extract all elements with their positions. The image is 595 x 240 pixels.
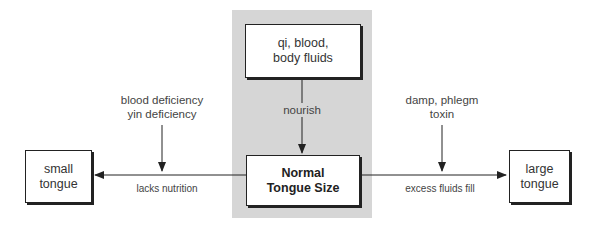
- source-box-line1: qi, blood,: [273, 36, 333, 51]
- left-cause-line2: yin deficiency: [102, 107, 222, 121]
- right-cause-line1: damp, phlegm: [392, 93, 492, 107]
- small-tongue-line2: tongue: [39, 177, 77, 192]
- right-cause-line2: toxin: [392, 107, 492, 121]
- small-tongue-box: small tongue: [25, 150, 92, 203]
- nourish-label: nourish: [272, 103, 332, 117]
- excess-fluids-fill-label: excess fluids fill: [395, 182, 485, 196]
- source-box-line2: body fluids: [273, 51, 333, 66]
- qi-blood-fluids-box: qi, blood, body fluids: [245, 24, 361, 78]
- left-cause-line1: blood deficiency: [102, 93, 222, 107]
- target-box-line1: Normal: [267, 166, 340, 181]
- target-box-line2: Tongue Size: [267, 181, 340, 196]
- lacks-nutrition-label: lacks nutrition: [132, 182, 202, 196]
- right-cause-label: damp, phlegm toxin: [392, 93, 492, 121]
- large-tongue-line1: large: [520, 162, 558, 177]
- large-tongue-line2: tongue: [520, 177, 558, 192]
- small-tongue-line1: small: [39, 162, 77, 177]
- normal-tongue-size-box: Normal Tongue Size: [246, 155, 360, 206]
- large-tongue-box: large tongue: [509, 150, 570, 203]
- left-cause-label: blood deficiency yin deficiency: [102, 93, 222, 121]
